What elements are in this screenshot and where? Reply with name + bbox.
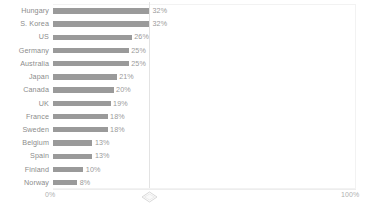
slider-track-line (149, 2, 150, 188)
bar-track: 10% (53, 164, 356, 176)
x-axis-min-label: 0% (45, 191, 55, 198)
bar-category-label: France (0, 111, 49, 123)
bar (53, 114, 108, 119)
bar (53, 154, 92, 159)
bar-category-label: Sweden (0, 124, 49, 136)
bar (53, 180, 77, 185)
bar-row: Spain13% (0, 150, 373, 162)
bar-row: Sweden18% (0, 124, 373, 136)
bar-row: S. Korea32% (0, 18, 373, 30)
bar (53, 140, 92, 145)
bar-value-label: 13% (95, 150, 110, 162)
bar-row: Finland10% (0, 164, 373, 176)
bar (53, 61, 129, 66)
bar-track: 21% (53, 71, 356, 83)
bar-track: 20% (53, 84, 356, 96)
bar-value-label: 21% (119, 71, 134, 83)
bar-category-label: Germany (0, 45, 49, 57)
bar-category-label: Belgium (0, 137, 49, 149)
bar-track: 13% (53, 150, 356, 162)
bar (53, 127, 108, 132)
bar-track: 25% (53, 45, 356, 57)
bar-category-label: US (0, 31, 49, 43)
bar-value-label: 18% (110, 124, 125, 136)
bar-value-label: 20% (116, 84, 131, 96)
bar-row: Germany25% (0, 45, 373, 57)
bar-category-label: Canada (0, 84, 49, 96)
bar-row: US26% (0, 31, 373, 43)
bar-rows: Hungary32%S. Korea32%US26%Germany25%Aust… (0, 4, 373, 189)
bar-track: 32% (53, 5, 356, 17)
bar-track: 8% (53, 177, 356, 189)
bar-row: France18% (0, 111, 373, 123)
bar-row: Belgium13% (0, 137, 373, 149)
bar-category-label: UK (0, 98, 49, 110)
bar-category-label: Japan (0, 71, 49, 83)
bar-track: 13% (53, 137, 356, 149)
bar-category-label: Norway (0, 177, 49, 189)
bar-row: Canada20% (0, 84, 373, 96)
bar-row: Norway8% (0, 177, 373, 189)
x-axis-max-label: 100% (341, 191, 359, 198)
bar (53, 48, 129, 53)
bar-value-label: 19% (113, 98, 128, 110)
horizontal-bar-chart: Hungary32%S. Korea32%US26%Germany25%Aust… (0, 0, 373, 207)
bar-value-label: 32% (152, 5, 167, 17)
diamond-handle-icon[interactable] (141, 191, 158, 203)
bar (53, 87, 114, 92)
bar-category-label: Finland (0, 164, 49, 176)
bar-value-label: 32% (152, 18, 167, 30)
bar (53, 21, 150, 26)
bar-row: Japan21% (0, 71, 373, 83)
bar-track: 25% (53, 58, 356, 70)
bar-category-label: Hungary (0, 5, 49, 17)
bar (53, 74, 117, 79)
bar-category-label: Australia (0, 58, 49, 70)
bar-category-label: S. Korea (0, 18, 49, 30)
bar-value-label: 13% (95, 137, 110, 149)
bar (53, 35, 132, 40)
bar-track: 19% (53, 98, 356, 110)
bar-row: UK19% (0, 98, 373, 110)
bar-track: 18% (53, 111, 356, 123)
bar-category-label: Spain (0, 150, 49, 162)
bar-value-label: 10% (86, 164, 101, 176)
x-axis-line (53, 189, 356, 190)
bar (53, 8, 150, 13)
bar-row: Australia25% (0, 58, 373, 70)
bar-row: Hungary32% (0, 5, 373, 17)
bar-track: 26% (53, 31, 356, 43)
bar-value-label: 26% (134, 31, 149, 43)
bar-value-label: 25% (131, 58, 146, 70)
bar-value-label: 8% (80, 177, 91, 189)
bar-value-label: 25% (131, 45, 146, 57)
bar-value-label: 18% (110, 111, 125, 123)
bar-track: 18% (53, 124, 356, 136)
bar-track: 32% (53, 18, 356, 30)
bar (53, 101, 111, 106)
bar (53, 167, 83, 172)
